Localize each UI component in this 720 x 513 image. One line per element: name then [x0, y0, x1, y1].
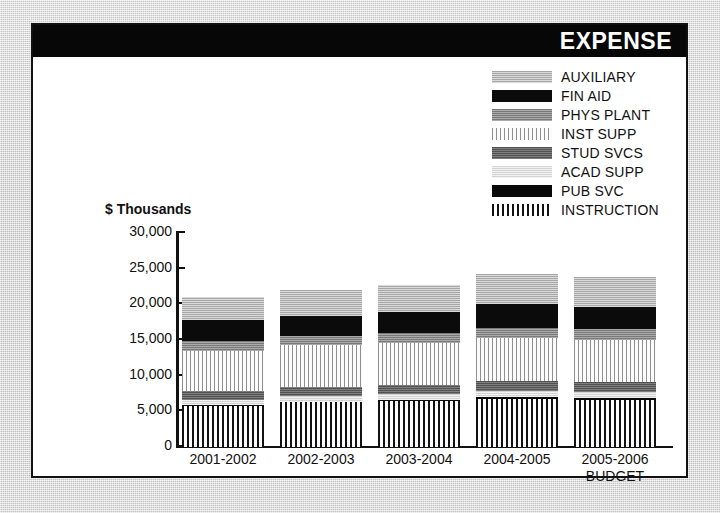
x-axis-label-main: 2001-2002	[190, 451, 257, 467]
x-axis-label-sub: BUDGET	[560, 468, 670, 485]
x-axis-label: 2004-2005	[462, 451, 572, 468]
bar-segment-phys-plant	[574, 329, 656, 340]
bar-segment-inst-supp	[476, 338, 558, 381]
bar-segment-phys-plant	[280, 336, 362, 345]
x-axis-label: 2003-2004	[364, 451, 474, 468]
bar-segment-fin-aid	[182, 320, 264, 341]
bar-segment-auxiliary	[574, 277, 656, 307]
x-axis-label-main: 2005-2006	[582, 451, 649, 467]
bar-segment-fin-aid	[280, 316, 362, 337]
chart-frame: EXPENSE AUXILIARYFIN AIDPHYS PLANTINST S…	[31, 23, 688, 478]
bar-segment-stud-svcs	[280, 387, 362, 396]
bar-segment-auxiliary	[280, 290, 362, 316]
bar-segment-inst-supp	[574, 340, 656, 382]
y-axis-tick-label: 15,000	[129, 330, 172, 346]
bar-segment-fin-aid	[476, 304, 558, 327]
bars-container	[182, 232, 673, 447]
bar-segment-stud-svcs	[476, 381, 558, 391]
y-axis-tick-label: 30,000	[129, 223, 172, 239]
bar-segment-phys-plant	[378, 333, 460, 343]
bar-segment-inst-supp	[182, 351, 264, 391]
y-axis-tick-label: 5,000	[137, 401, 172, 417]
bar-segment-phys-plant	[182, 341, 264, 351]
bar-segment-instruction	[280, 402, 362, 447]
bar-segment-fin-aid	[378, 312, 460, 333]
y-axis-tick-label: 10,000	[129, 366, 172, 382]
x-axis-label: 2001-2002	[168, 451, 278, 468]
plot-area: $ Thousands 30,00025,00020,00015,00010,0…	[33, 25, 686, 476]
bar-segment-fin-aid	[574, 307, 656, 329]
x-axis-label-main: 2004-2005	[484, 451, 551, 467]
bar-segment-stud-svcs	[182, 391, 264, 400]
bar-segment-auxiliary	[476, 274, 558, 304]
bar-segment-instruction	[476, 399, 558, 447]
bar-segment-inst-supp	[378, 343, 460, 385]
bar-segment-stud-svcs	[574, 382, 656, 392]
bar-segment-instruction	[574, 400, 656, 447]
bar-segment-inst-supp	[280, 345, 362, 387]
y-axis-tick-label: 20,000	[129, 294, 172, 310]
bar-2001-2002[interactable]	[182, 232, 264, 447]
y-axis-label: $ Thousands	[105, 201, 191, 217]
bar-segment-stud-svcs	[378, 385, 460, 394]
bar-segment-auxiliary	[182, 297, 264, 320]
bar-segment-instruction	[182, 406, 264, 447]
y-axis-tick-label: 25,000	[129, 259, 172, 275]
bar-2005-2006[interactable]	[574, 232, 656, 447]
x-axis-label-main: 2003-2004	[386, 451, 453, 467]
bar-2002-2003[interactable]	[280, 232, 362, 447]
bar-segment-instruction	[378, 401, 460, 447]
x-axis-label: 2005-2006BUDGET	[560, 451, 670, 485]
bar-2003-2004[interactable]	[378, 232, 460, 447]
x-axis-label-main: 2002-2003	[288, 451, 355, 467]
bar-segment-phys-plant	[476, 328, 558, 339]
x-axis-label: 2002-2003	[266, 451, 376, 468]
bar-2004-2005[interactable]	[476, 232, 558, 447]
bar-segment-auxiliary	[378, 285, 460, 312]
